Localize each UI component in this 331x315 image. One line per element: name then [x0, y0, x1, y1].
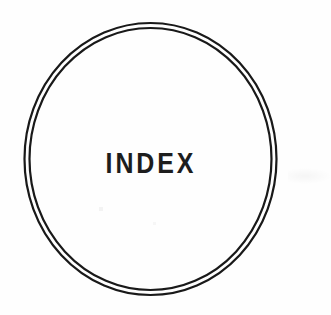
page-title: INDEX: [21, 148, 281, 178]
page-root: INDEX: [0, 0, 331, 315]
